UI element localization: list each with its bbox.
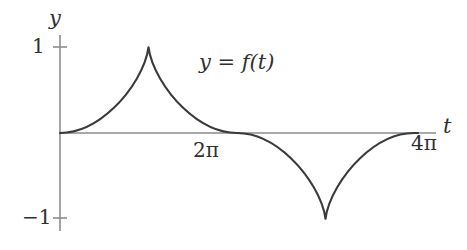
t-axis-label: t — [443, 116, 451, 137]
x-tick-label-two-pi: 2π — [193, 140, 219, 160]
sine-curve-figure: y t 1 −1 2π 4π y = f(t) — [0, 0, 467, 250]
y-tick-label-negative-one: −1 — [22, 207, 51, 227]
curve-equation-annotation: y = f(t) — [199, 52, 274, 73]
y-axis-label: y — [49, 8, 61, 29]
plot-canvas — [0, 0, 467, 250]
y-tick-label-positive-one: 1 — [32, 36, 45, 56]
x-tick-label-four-pi: 4π — [411, 133, 437, 153]
